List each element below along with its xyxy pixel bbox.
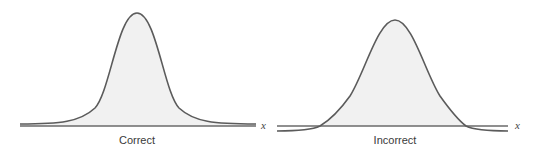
normal-curve-comparison-figure: x Correct x Incorrect: [0, 0, 540, 149]
correct-curve-area: [20, 13, 256, 126]
panel-correct: x Correct: [20, 13, 266, 146]
incorrect-axis-variable: x: [514, 119, 520, 131]
panel-incorrect: x Incorrect: [277, 20, 520, 146]
correct-panel-label: Correct: [119, 134, 155, 146]
correct-axis-variable: x: [260, 119, 266, 131]
incorrect-curve-area: [320, 20, 466, 126]
incorrect-panel-label: Incorrect: [374, 134, 417, 146]
